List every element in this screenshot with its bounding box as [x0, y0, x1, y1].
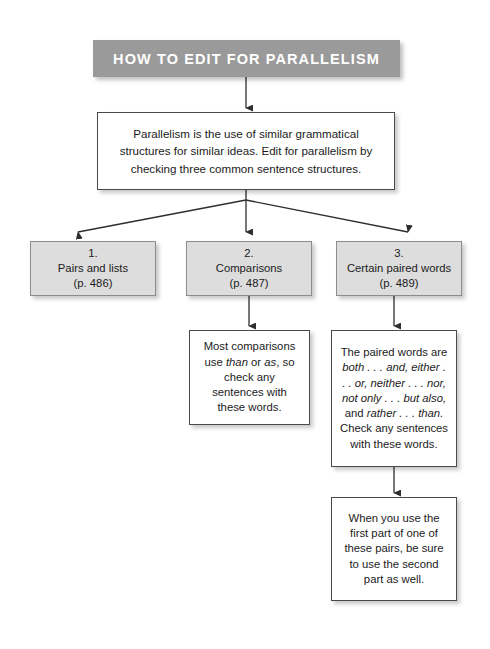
category-1-label: Pairs and lists — [58, 261, 128, 276]
paired-words-line-5-pre: and — [345, 407, 367, 419]
flowchart-page: HOW TO EDIT FOR PARALLELISM Parallelism … — [0, 0, 490, 649]
page-title-banner: HOW TO EDIT FOR PARALLELISM — [93, 40, 400, 77]
page-title: HOW TO EDIT FOR PARALLELISM — [113, 51, 380, 67]
category-box-1: 1. Pairs and lists (p. 486) — [30, 241, 156, 296]
category-3-page: (p. 489) — [347, 276, 451, 291]
paired-words-note-text: When you use the first part of one of th… — [332, 511, 456, 587]
comparisons-line-2-pre: use — [205, 356, 226, 368]
comparisons-line-2-post: , so — [276, 356, 294, 368]
comparisons-em-as: as — [264, 356, 276, 368]
paired-words-line-1: The paired words are — [341, 346, 448, 358]
connector-to-category-1 — [78, 200, 246, 232]
comparisons-line-1: Most comparisons — [204, 340, 296, 352]
category-1-number: 1. — [58, 246, 128, 261]
category-3-label: Certain paired words — [347, 261, 451, 276]
category-3-number: 3. — [347, 246, 451, 261]
detail-box-comparisons: Most comparisons use than or as, so chec… — [189, 330, 310, 425]
category-1-page: (p. 486) — [58, 276, 128, 291]
comparisons-em-than: than — [226, 356, 248, 368]
category-box-3: 3. Certain paired words (p. 489) — [336, 241, 462, 296]
intro-box: Parallelism is the use of similar gramma… — [97, 112, 395, 190]
connector-to-category-3 — [246, 200, 408, 232]
comparisons-line-3: check any sentences — [212, 371, 275, 398]
paired-words-line-4: not only . . . but also, — [342, 392, 446, 404]
intro-text: Parallelism is the use of similar gramma… — [98, 125, 394, 178]
category-2-number: 2. — [216, 246, 283, 261]
paired-words-line-5-em: rather . . . than. — [367, 407, 444, 419]
paired-words-line-3: or, neither . . . nor, — [355, 377, 446, 389]
detail-box-paired-words: The paired words are both . . . and, eit… — [331, 330, 457, 467]
detail-box-paired-words-note: When you use the first part of one of th… — [331, 497, 457, 601]
category-2-page: (p. 487) — [216, 276, 283, 291]
category-box-2: 2. Comparisons (p. 487) — [186, 241, 312, 296]
comparisons-line-2-mid: or — [248, 356, 264, 368]
paired-words-line-6: Check any sentences — [340, 422, 448, 434]
paired-words-line-7: with these words. — [350, 438, 437, 450]
category-2-label: Comparisons — [216, 261, 283, 276]
